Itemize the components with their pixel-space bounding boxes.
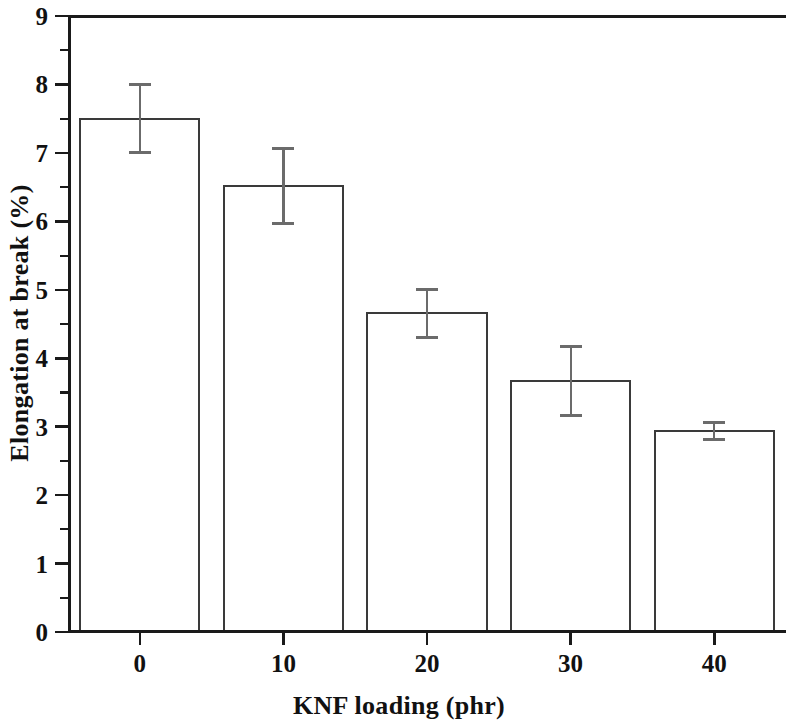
y-tick-label-8: 8	[36, 71, 49, 98]
figure-container: 0123456789 010203040 KNF loading (phr) E…	[0, 0, 798, 726]
bar-0	[80, 119, 199, 632]
x-axis-title: KNF loading (phr)	[293, 691, 505, 720]
y-tick-label-0: 0	[36, 619, 49, 646]
y-tick-label-7: 7	[36, 140, 49, 167]
y-axis-title: Elongation at break (%)	[5, 184, 34, 461]
y-tick-label-9: 9	[36, 3, 49, 30]
y-tick-label-6: 6	[36, 208, 49, 235]
bar-20	[367, 313, 486, 632]
y-tick-label-5: 5	[36, 277, 49, 304]
x-tick-label-30: 30	[558, 650, 583, 677]
x-tick-label-40: 40	[702, 650, 727, 677]
x-tick-label-10: 10	[271, 650, 296, 677]
y-tick-label-3: 3	[36, 414, 49, 441]
y-tick-label-2: 2	[36, 482, 49, 509]
bar-chart: 0123456789 010203040 KNF loading (phr) E…	[0, 0, 798, 726]
bar-10	[224, 186, 343, 632]
y-tick-label-4: 4	[36, 345, 49, 372]
bar-40	[655, 431, 774, 632]
x-tick-label-20: 20	[415, 650, 440, 677]
x-tick-label-0: 0	[134, 650, 147, 677]
y-tick-label-1: 1	[36, 551, 49, 578]
bar-30	[511, 381, 630, 632]
